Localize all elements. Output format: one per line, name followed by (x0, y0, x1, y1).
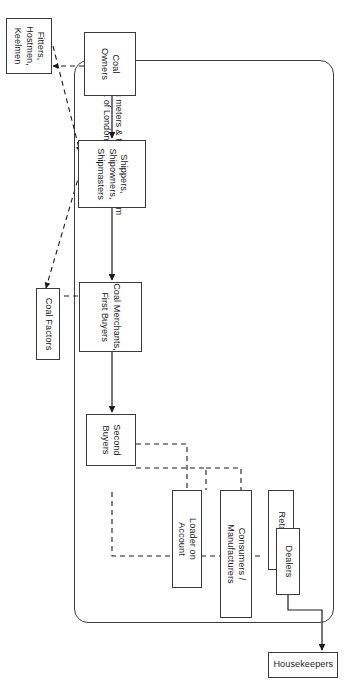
node-coal-merchants-first-buyers[interactable]: Coal Merchants, First Buyers (79, 282, 142, 352)
node-shippers[interactable]: Shippers, Shipowners, Shipmasters (78, 140, 146, 208)
node-coal-owners[interactable]: Coal Owners (84, 32, 136, 96)
node-second-buyers-label: Second Buyers (100, 424, 123, 455)
node-coal-owners-label: Coal Owners (99, 48, 122, 80)
diagram-rotation-wrapper: Public meters & the metage system (Corp.… (0, 0, 352, 684)
diagram-canvas: Public meters & the metage system (Corp.… (0, 0, 352, 684)
node-coal-factors-label: Coal Factors (42, 298, 53, 351)
node-shippers-label: Shippers, Shipowners, Shipmasters (95, 148, 129, 200)
node-loader-on-account[interactable]: Loader on Account (172, 490, 202, 588)
node-second-buyers[interactable]: Second Buyers (86, 414, 136, 466)
node-coal-merchants-first-buyers-label: Coal Merchants, First Buyers (99, 283, 122, 351)
node-housekeepers-label: Housekeepers (273, 659, 333, 670)
node-loader-on-account-label: Loader on Account (176, 518, 199, 560)
node-housekeepers[interactable]: Housekeepers (268, 652, 338, 678)
node-dealers-label: Dealers (282, 545, 293, 577)
node-fitters-hostmen-keelmen-label: Fitters, Hostmen, Keelmen (12, 26, 46, 66)
node-fitters-hostmen-keelmen[interactable]: Fitters, Hostmen, Keelmen (6, 18, 52, 74)
node-consumers-manufacturers-label: Consumers / Manufacturers (225, 524, 248, 583)
node-coal-factors[interactable]: Coal Factors (36, 288, 60, 360)
node-dealers[interactable]: Dealers (276, 528, 300, 595)
node-consumers-manufacturers[interactable]: Consumers / Manufacturers (220, 490, 252, 618)
